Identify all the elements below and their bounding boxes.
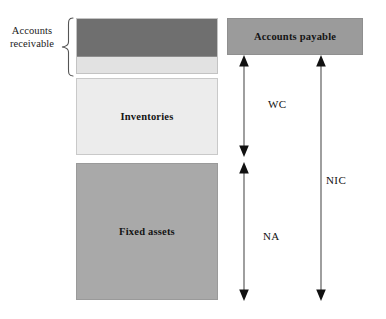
accounts-payable-label: Accounts payable [254, 31, 336, 42]
accounts-receivable-fill-light [77, 58, 217, 73]
diagram-canvas: Accounts receivable Inventories Fixed as… [0, 0, 386, 319]
right-curly-brace-icon [60, 17, 74, 75]
accounts-receivable-fill-dark [77, 19, 217, 57]
fixed-assets-label: Fixed assets [119, 226, 175, 237]
fixed-assets-box: Fixed assets [76, 163, 218, 300]
wc-double-arrow [234, 54, 254, 158]
inventories-box: Inventories [76, 78, 218, 155]
na-double-arrow [234, 161, 254, 302]
accounts-receivable-box [76, 18, 218, 74]
inventories-label: Inventories [121, 111, 174, 122]
nic-label: NIC [326, 174, 346, 186]
accounts-payable-box: Accounts payable [227, 18, 363, 55]
accounts-receivable-label-line1: Accounts [4, 24, 60, 37]
accounts-receivable-label-line2: receivable [4, 37, 60, 50]
na-label: NA [263, 230, 280, 242]
wc-label: WC [268, 98, 287, 110]
accounts-receivable-label: Accounts receivable [4, 24, 60, 50]
